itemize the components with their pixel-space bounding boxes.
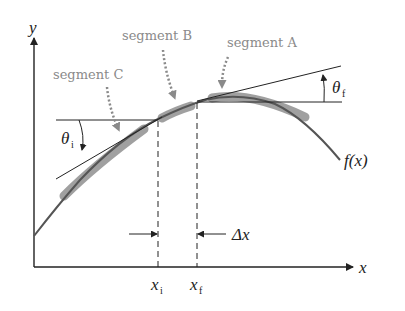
segment-c-pointer [107, 87, 118, 128]
svg-text:θ: θ [332, 78, 340, 97]
segment-c-label: segment C [53, 67, 123, 82]
svg-text:f: f [199, 285, 203, 296]
final-tangent-line [197, 66, 341, 101]
delta-x-label: Δx [231, 225, 250, 244]
svg-text:θ: θ [61, 129, 69, 148]
segment-b-highlight [162, 106, 191, 118]
diagram-canvas: y x f(x) segment B segment A segment C θ… [0, 0, 405, 311]
svg-text:x: x [150, 275, 159, 294]
segment-b-pointer [163, 50, 174, 96]
svg-text:f: f [342, 88, 346, 99]
function-label: f(x) [344, 151, 368, 170]
svg-text:i: i [160, 285, 163, 296]
segment-a-label: segment A [227, 35, 297, 50]
function-curve [34, 97, 340, 236]
segment-a-pointer [222, 57, 228, 85]
theta-final-arc [323, 75, 324, 102]
x-initial-label: x i [150, 275, 163, 296]
svg-text:x: x [189, 275, 198, 294]
theta-final-label: θ f [332, 78, 346, 99]
theta-initial-arc [79, 120, 83, 150]
segment-b-label: segment B [122, 28, 192, 43]
theta-initial-label: θ i [61, 129, 74, 150]
x-axis-label: x [358, 258, 367, 277]
y-axis-label: y [27, 18, 37, 37]
x-final-label: x f [189, 275, 203, 296]
svg-text:i: i [71, 139, 74, 150]
